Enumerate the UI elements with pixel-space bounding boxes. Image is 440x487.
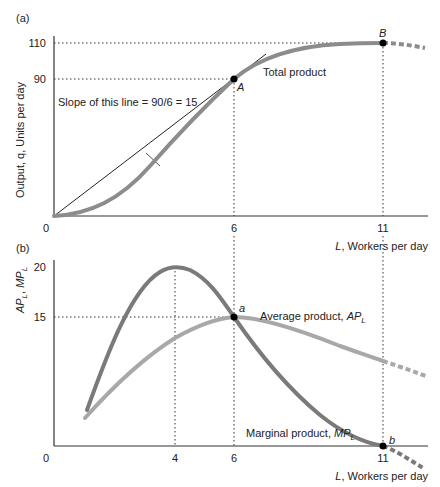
panel-a-label: (a) xyxy=(16,12,29,24)
marginal-product-curve xyxy=(87,267,383,446)
point-A-label: A xyxy=(236,81,244,93)
top-y-tick-90: 90 xyxy=(34,73,46,85)
total-product-curve-extension xyxy=(383,43,425,48)
top-y-tick-110: 110 xyxy=(28,37,46,49)
bottom-x-tick-4: 4 xyxy=(172,452,178,464)
top-x-tick-11: 11 xyxy=(377,222,388,234)
point-a-label: a xyxy=(239,302,245,314)
top-x-axis-label: L, Workers per day xyxy=(335,240,428,252)
total-product-curve xyxy=(54,43,383,216)
bottom-y-tick-20: 20 xyxy=(34,261,46,273)
slope-label: Slope of this line = 90/6 = 15 xyxy=(58,96,197,108)
top-y-axis-label: Output, q, Units per day xyxy=(14,81,26,198)
point-b xyxy=(380,443,387,450)
marginal-product-curve-extension xyxy=(383,446,423,468)
average-product-curve-extension xyxy=(383,361,428,377)
bottom-y-tick-15: 15 xyxy=(34,311,46,323)
point-B xyxy=(380,40,387,47)
panel-b-label: (b) xyxy=(16,242,29,254)
panel-a: (a) Output, q, Units per day 110 90 0 6 … xyxy=(14,12,428,252)
panel-b: (b) APL, MPL 20 15 0 4 6 11 L, Workers p… xyxy=(14,236,428,482)
top-x-tick-6: 6 xyxy=(231,222,237,234)
bottom-x-axis-label: L, Workers per day xyxy=(335,470,428,482)
top-x-tick-0: 0 xyxy=(43,222,49,234)
point-a xyxy=(231,314,238,321)
bottom-x-tick-6: 6 xyxy=(231,452,237,464)
bottom-x-tick-0: 0 xyxy=(43,452,49,464)
point-B-label: B xyxy=(379,27,386,39)
point-b-label: b xyxy=(389,434,395,446)
bottom-y-axis-label: APL, MPL xyxy=(14,267,29,314)
production-charts: (a) Output, q, Units per day 110 90 0 6 … xyxy=(0,0,440,487)
bottom-x-tick-11: 11 xyxy=(377,452,388,464)
marginal-product-label: Marginal product, MPL xyxy=(246,427,355,442)
total-product-label: Total product xyxy=(263,66,326,78)
